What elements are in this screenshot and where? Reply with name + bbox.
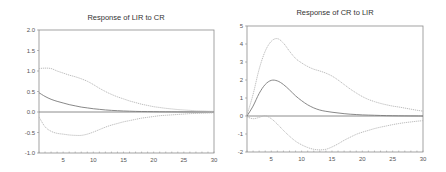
y-tick-label: 1.5 xyxy=(27,48,36,54)
x-tick-label: 10 xyxy=(298,156,305,162)
confidence-band-line xyxy=(247,116,423,150)
y-tick-label: -1.0 xyxy=(25,150,36,156)
confidence-band-line xyxy=(247,39,423,116)
response-line xyxy=(39,93,214,112)
x-tick-label: 15 xyxy=(120,157,127,163)
y-tick-label: -2 xyxy=(238,149,244,155)
impulse-response-figure: Response of LIR to CR 2.01.51.00.50.0-0.… xyxy=(0,0,446,172)
x-tick-label: 10 xyxy=(90,157,97,163)
x-tick-label: 30 xyxy=(420,156,427,162)
x-tick-label: 5 xyxy=(61,157,65,163)
panel-cr-to-lir: Response of CR to LIR 543210-1-251015202… xyxy=(238,8,427,162)
chart-title: Response of CR to LIR xyxy=(296,8,374,17)
y-tick-label: 5 xyxy=(240,23,244,29)
y-tick-label: -0.5 xyxy=(25,130,36,136)
confidence-band-line xyxy=(39,68,214,111)
y-tick-label: 3 xyxy=(240,59,244,65)
y-tick-label: 1.0 xyxy=(27,68,36,74)
x-tick-label: 20 xyxy=(150,157,157,163)
x-tick-label: 5 xyxy=(270,156,274,162)
plot-frame xyxy=(39,30,214,153)
x-tick-label: 20 xyxy=(359,156,366,162)
y-tick-label: 0.5 xyxy=(27,89,36,95)
y-tick-label: 2 xyxy=(240,77,244,83)
y-tick-label: 4 xyxy=(240,41,244,47)
chart-title: Response of LIR to CR xyxy=(87,13,165,22)
y-tick-label: 0.0 xyxy=(27,109,36,115)
panel-lir-to-cr: Response of LIR to CR 2.01.51.00.50.0-0.… xyxy=(25,13,218,163)
response-line xyxy=(247,80,423,116)
x-tick-label: 30 xyxy=(211,157,218,163)
x-tick-label: 15 xyxy=(329,156,336,162)
x-tick-label: 25 xyxy=(389,156,396,162)
x-tick-label: 25 xyxy=(180,157,187,163)
y-tick-label: 0 xyxy=(240,113,244,119)
confidence-band-line xyxy=(39,113,214,136)
y-tick-label: 1 xyxy=(240,95,244,101)
plot-frame xyxy=(247,26,423,152)
y-tick-label: -1 xyxy=(238,131,244,137)
y-tick-label: 2.0 xyxy=(27,27,36,33)
